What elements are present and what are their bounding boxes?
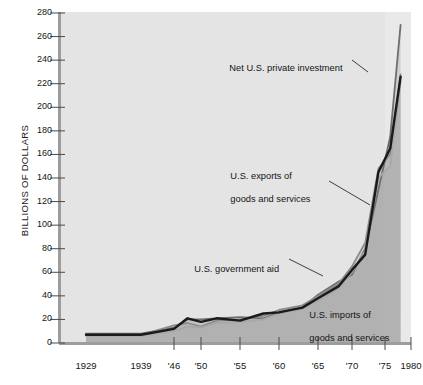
- y-tick-label: 80: [26, 244, 52, 253]
- y-tick-label: 240: [26, 55, 52, 64]
- y-tick-label: 180: [26, 126, 52, 135]
- annotation-exports: U.S. exports of goods and services: [220, 160, 310, 217]
- annotation-government-aid: U.S. government aid: [184, 253, 279, 287]
- y-tick-label: 140: [26, 173, 52, 182]
- x-tick-label: 1939: [130, 360, 151, 371]
- x-tick-label: '75: [379, 360, 391, 371]
- y-tick-label: 220: [26, 79, 52, 88]
- annotation-line-2: goods and services: [309, 333, 389, 343]
- x-tick-label: '55: [234, 360, 246, 371]
- annotation-line-2: goods and services: [230, 194, 310, 204]
- annotation-line-1: U.S. exports of: [230, 171, 292, 181]
- x-tick-label: 1929: [75, 360, 96, 371]
- x-axis-tick-labels: 19291939'46'50'55'60'65'70'751980: [0, 356, 423, 376]
- y-tick-label: 260: [26, 32, 52, 41]
- x-tick-label: '50: [195, 360, 207, 371]
- annotation-net-private-investment: Net U.S. private investment: [219, 52, 343, 86]
- x-tick-label: 1980: [400, 360, 421, 371]
- y-tick-label: 100: [26, 220, 52, 229]
- annotation-line-1: U.S. imports of: [309, 310, 370, 320]
- y-tick-label: 0: [26, 338, 52, 347]
- y-axis-tick-labels: 280260240220200180160140120100806040200: [22, 0, 52, 385]
- y-tick-label: 40: [26, 291, 52, 300]
- y-tick-label: 160: [26, 149, 52, 158]
- y-tick-label: 60: [26, 267, 52, 276]
- chart-figure: BILLIONS OF DOLLARS 28026024022020018016…: [0, 0, 423, 385]
- x-tick-label: '65: [312, 360, 324, 371]
- y-tick-label: 200: [26, 102, 52, 111]
- y-tick-label: 20: [26, 314, 52, 323]
- x-tick-label: '46: [168, 360, 180, 371]
- y-tick-label: 280: [26, 8, 52, 17]
- y-tick-label: 120: [26, 197, 52, 206]
- x-tick-label: '60: [273, 360, 285, 371]
- annotation-imports: U.S. imports of goods and services: [299, 299, 389, 356]
- x-tick-label: '70: [346, 360, 358, 371]
- annotation-line-1: Net U.S. private investment: [229, 63, 342, 73]
- annotation-line-1: U.S. government aid: [194, 264, 279, 274]
